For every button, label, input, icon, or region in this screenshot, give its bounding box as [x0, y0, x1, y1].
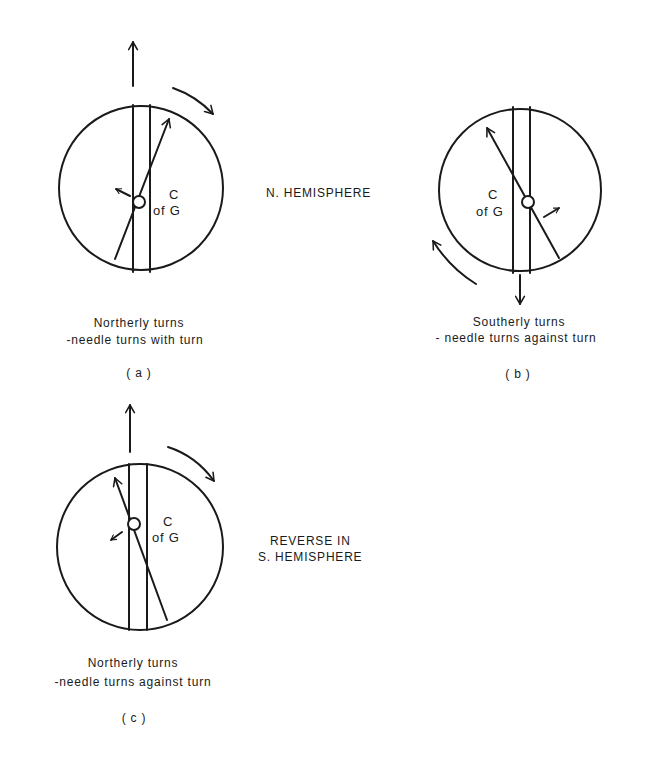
caption-line-1: Northerly turns [88, 656, 179, 670]
caption-line-2: -needle turns with turn [66, 333, 203, 347]
panel-a: C of G Northerly turns -needle turns wit… [59, 42, 223, 380]
panel-tag: ( a ) [126, 366, 151, 380]
turn-direction-arrow-icon [433, 241, 476, 284]
cg-label-c: C [163, 514, 173, 529]
compass-needle-icon [115, 119, 169, 259]
cg-label-of-g: of G [476, 204, 504, 219]
turn-direction-arrow-icon [168, 447, 214, 481]
compass-needle-icon [115, 478, 167, 620]
caption-line-2: -needle turns against turn [55, 675, 212, 689]
caption-line-1: Northerly turns [94, 316, 185, 330]
compass-turning-error-diagram: C of G Northerly turns -needle turns wit… [0, 0, 657, 757]
panel-tag: ( b ) [505, 367, 530, 381]
caption-line-2: - needle turns against turn [435, 331, 596, 345]
compass-bowl [439, 109, 601, 271]
reverse-label-line-2: S. HEMISPHERE [258, 550, 362, 564]
pivot-point-icon [128, 518, 140, 530]
pivot-point-icon [133, 196, 145, 208]
cg-label-of-g: of G [152, 530, 180, 545]
reverse-label-line-1: REVERSE IN [270, 534, 351, 548]
panel-tag: ( c ) [122, 711, 147, 725]
cg-label-c: C [169, 187, 179, 202]
cg-force-arrow-icon [544, 208, 559, 217]
pivot-point-icon [522, 196, 534, 208]
caption-line-1: Southerly turns [473, 315, 566, 329]
cg-force-arrow-icon [116, 189, 130, 196]
cg-label-c: C [488, 187, 498, 202]
compass-bowl [59, 106, 223, 270]
panel-b: C of G Southerly turns - needle turns ag… [433, 107, 601, 381]
cg-label-of-g: of G [153, 203, 181, 218]
turn-direction-arrow-icon [173, 88, 213, 114]
cg-force-arrow-icon [111, 532, 122, 540]
panel-c: C of G Northerly turns -needle turns aga… [55, 405, 223, 725]
n-hemisphere-label: N. HEMISPHERE [266, 186, 371, 200]
